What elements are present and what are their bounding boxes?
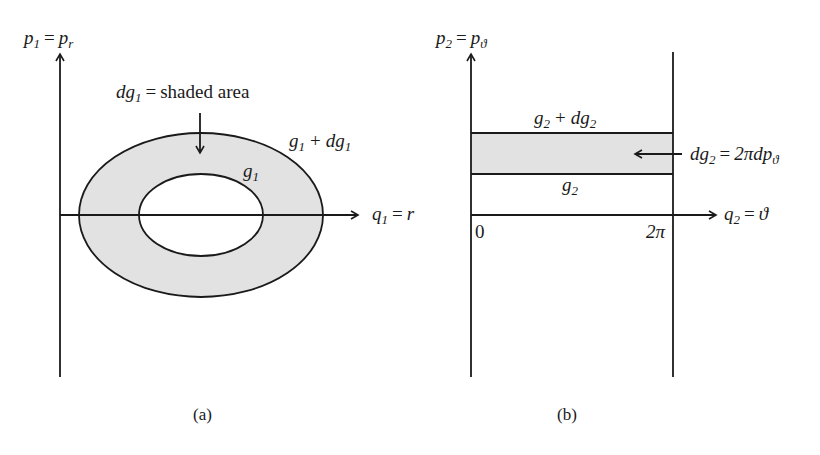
tick-label-0: 0 <box>475 221 485 242</box>
caption-b: (b) <box>557 405 577 424</box>
upper-contour-label: g2+dg2 <box>534 107 597 131</box>
panel-b: p2=pϑ q2=ϑ 0 2π g2+dg2 g2 dg2=2πdpϑ (b) <box>434 27 779 424</box>
outer-contour-label: g1+dg1 <box>289 130 351 154</box>
y-axis-label-b: p2=pϑ <box>434 27 487 51</box>
annotation-label-a: dg1=shaded area <box>116 81 250 105</box>
x-axis-label-b: q2=ϑ <box>724 203 770 227</box>
annotation-label-b: dg2=2πdpϑ <box>690 143 779 167</box>
phase-space-diagram: p1=pr q1=r dg1=shaded area g1+dg1 g1 (a) <box>0 0 820 455</box>
y-axis-label-a: p1=pr <box>22 27 74 51</box>
lower-contour-label: g2 <box>562 174 579 198</box>
panel-a: p1=pr q1=r dg1=shaded area g1+dg1 g1 (a) <box>22 27 415 424</box>
caption-a: (a) <box>193 405 212 424</box>
tick-label-2pi: 2π <box>646 221 666 242</box>
x-axis-label-a: q1=r <box>372 203 415 227</box>
